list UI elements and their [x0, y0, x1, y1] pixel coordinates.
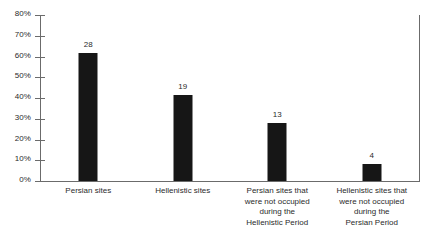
x-axis-line: [40, 181, 420, 182]
y-axis-tick-label: 40%: [0, 93, 31, 101]
x-axis-category-label-line: were not occupied: [325, 197, 420, 208]
bar[interactable]: [268, 123, 287, 181]
bar-group: 4: [325, 15, 420, 181]
y-axis-tick-label: 20%: [0, 135, 31, 143]
y-axis-tick-label: 60%: [0, 52, 31, 60]
bar-value-label: 19: [178, 83, 187, 91]
plot-area: 2819134: [41, 15, 419, 181]
y-axis-tick-label: 0%: [0, 176, 31, 184]
y-axis-tick-label: 50%: [0, 72, 31, 80]
bar[interactable]: [362, 164, 381, 181]
x-axis-category-label-line: Persian Period: [325, 218, 420, 229]
x-axis-category-label: Hellenistic sites thatwere not occupiedd…: [325, 186, 420, 228]
x-axis-category-label-line: during the: [230, 207, 325, 218]
y-axis-tick-label: 10%: [0, 155, 31, 163]
x-axis-category-label: Hellenistic sites: [136, 186, 231, 197]
x-axis-category-label-line: Persian sites: [41, 186, 136, 197]
bar[interactable]: [173, 95, 192, 181]
y-axis-tick-label: 30%: [0, 114, 31, 122]
x-axis-category-label-line: Hellenistic Period: [230, 218, 325, 229]
y-axis-tick-label: 80%: [0, 10, 31, 18]
plot-right-border: [419, 15, 420, 182]
bar[interactable]: [79, 53, 98, 181]
x-axis-category-label: Persian sites thatwere not occupieddurin…: [230, 186, 325, 228]
y-axis-tick-label: 70%: [0, 31, 31, 39]
bar-chart: 0%10%20%30%40%50%60%70%80% 2819134 Persi…: [0, 0, 440, 237]
bar-group: 13: [230, 15, 325, 181]
x-axis-category-label-line: during the: [325, 207, 420, 218]
x-axis-category-label: Persian sites: [41, 186, 136, 197]
bar-value-label: 13: [273, 111, 282, 119]
bar-value-label: 4: [370, 152, 374, 160]
x-axis-category-labels: Persian sitesHellenistic sitesPersian si…: [41, 186, 419, 234]
bar-value-label: 28: [84, 41, 93, 49]
bar-group: 19: [136, 15, 231, 181]
y-axis-tick: [35, 181, 45, 182]
bar-group: 28: [41, 15, 136, 181]
x-axis-category-label-line: Hellenistic sites: [136, 186, 231, 197]
x-axis-category-label-line: were not occupied: [230, 197, 325, 208]
x-axis-category-label-line: Persian sites that: [230, 186, 325, 197]
x-axis-category-label-line: Hellenistic sites that: [325, 186, 420, 197]
